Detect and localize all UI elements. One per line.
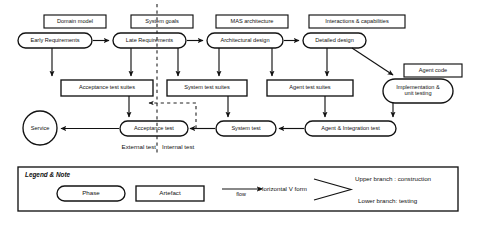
phase-early-requirements-shape (18, 33, 92, 48)
artefact-acceptance-test-suites-shape (61, 80, 153, 96)
test-system-test-shape (216, 121, 276, 136)
node-service-shape (23, 111, 57, 145)
artefact-interactions-capabilities-shape (309, 15, 405, 28)
artefact-mas-architecture-shape (216, 15, 288, 28)
diagram-vector-layer (0, 0, 477, 226)
artefact-agent-code-shape (404, 64, 462, 77)
phase-late-requirements-shape (113, 33, 186, 48)
arrow-detailed-to-implementation (352, 48, 393, 75)
test-agent-integration-test-shape (305, 121, 396, 136)
artefact-domain-model-shape (44, 15, 106, 28)
diagram-canvas: Domain model System goals MAS architectu… (0, 0, 477, 226)
phase-implementation-unit-testing-shape (383, 79, 453, 103)
artefact-agent-test-suites-shape (267, 80, 353, 96)
phase-detailed-design-shape (303, 33, 366, 48)
artefact-system-test-suites-shape (167, 80, 247, 96)
legend-artefact-shape (136, 186, 204, 201)
test-acceptance-test-shape (120, 121, 188, 136)
legend-phase-shape (57, 186, 125, 201)
artefact-system-goals-shape (131, 15, 193, 28)
phase-architectural-design-shape (207, 33, 283, 48)
